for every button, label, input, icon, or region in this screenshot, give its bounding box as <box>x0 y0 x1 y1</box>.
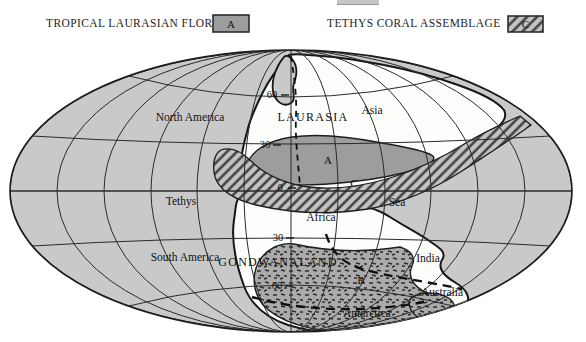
cropped-legend-box <box>337 0 379 5</box>
lat-label-60s: 60 <box>272 280 283 291</box>
label-antarctica: Antarctica <box>343 307 391 319</box>
paleogeographic-map: 60 30 0 30 60 North America LAURASIA Asi… <box>0 40 586 342</box>
zone-letter-c: C <box>350 177 357 189</box>
label-australia: Australia <box>421 286 463 298</box>
label-gondwanaland: GONDWANALAND <box>218 255 338 269</box>
label-india: India <box>416 252 440 264</box>
zone-letter-a: A <box>324 154 332 166</box>
legend: TROPICAL LAURASIAN FLORA A TETHYS CORAL … <box>0 0 586 40</box>
zone-letter-b: B <box>357 274 364 286</box>
legend-swatch-flora: A <box>212 14 250 33</box>
legend-label-coral: TETHYS CORAL ASSEMBLAGE <box>327 17 501 29</box>
lat-label-30s: 30 <box>273 232 284 243</box>
legend-swatch-coral: C <box>507 15 544 33</box>
lat-label-60n: 60 <box>267 89 278 100</box>
flora-swatch-letter: A <box>227 18 235 30</box>
label-asia: Asia <box>361 104 382 116</box>
label-africa: Africa <box>306 211 335 223</box>
label-laurasia: LAURASIA <box>277 110 348 124</box>
coral-swatch-letter: C <box>522 18 529 30</box>
legend-label-flora: TROPICAL LAURASIAN FLORA <box>46 17 221 29</box>
label-north-america: North America <box>156 111 225 123</box>
lat-label-30n: 30 <box>260 139 271 150</box>
lat-label-equator: 0 <box>277 182 282 193</box>
label-south-america: South America <box>151 251 220 263</box>
label-sea: Sea <box>389 196 406 208</box>
label-tethys: Tethys <box>166 195 197 208</box>
